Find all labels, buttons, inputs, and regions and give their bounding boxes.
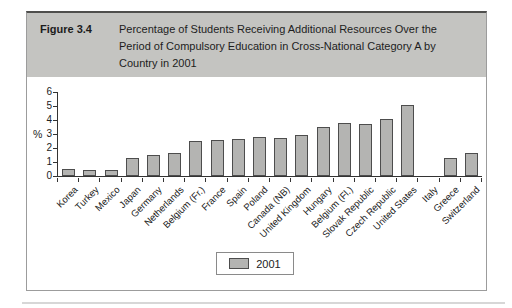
figure-box: Figure 3.4 Percentage of Students Receiv… <box>26 11 487 291</box>
figure-header: Figure 3.4 Percentage of Students Receiv… <box>27 13 486 77</box>
legend: 2001 <box>216 252 294 275</box>
figure-title-line-1: Percentage of Students Receiving Additio… <box>119 21 437 38</box>
figure-label: Figure 3.4 <box>40 21 119 38</box>
legend-label: 2001 <box>256 258 280 270</box>
figure-title-line-3: Country in 2001 <box>119 55 437 72</box>
page: Figure 3.4 Percentage of Students Receiv… <box>0 0 512 308</box>
figure-title: Percentage of Students Receiving Additio… <box>119 21 437 72</box>
page-bottom-rule <box>22 302 505 304</box>
legend-swatch-2001 <box>229 258 249 269</box>
figure-title-line-2: Period of Compulsory Education in Cross-… <box>119 38 437 55</box>
